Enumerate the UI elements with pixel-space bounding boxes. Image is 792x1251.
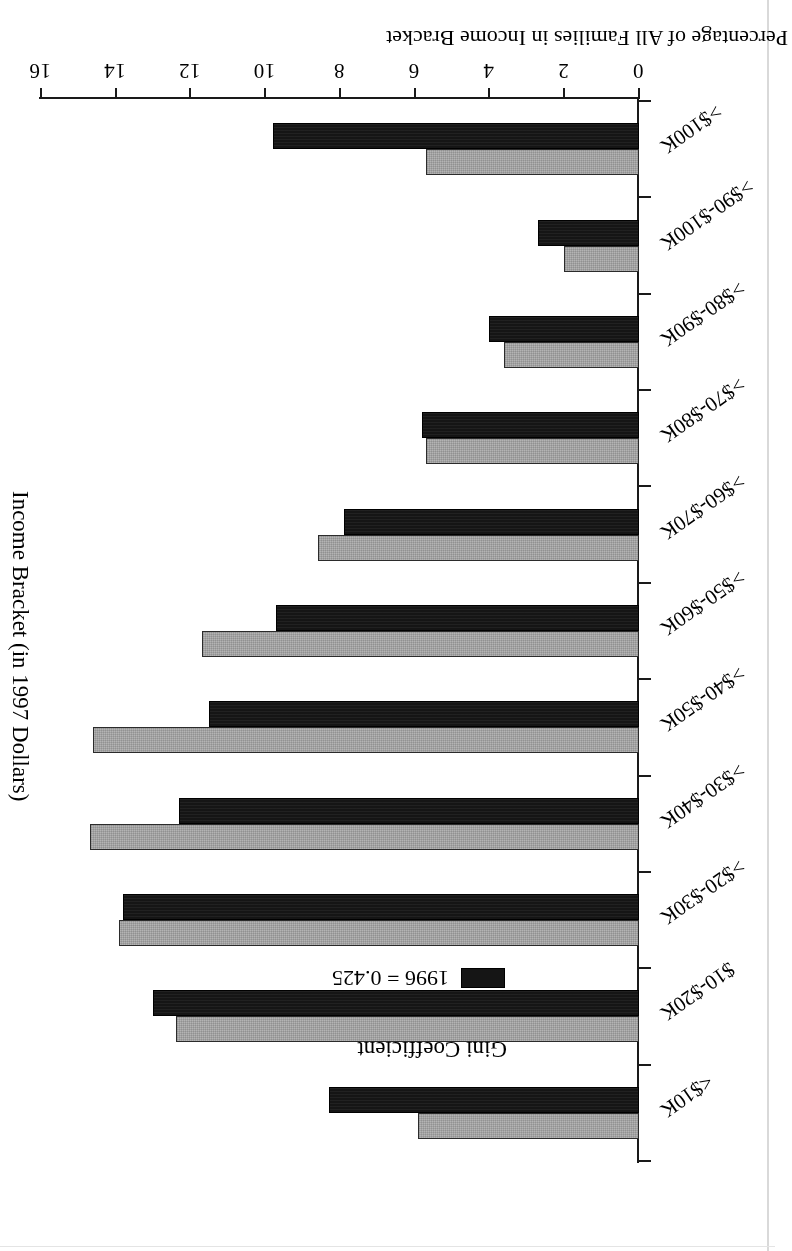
- bar-1973: [90, 824, 639, 850]
- bar-1996: [276, 605, 639, 631]
- value-tick-label: 16: [10, 59, 70, 83]
- bar-1973: [426, 149, 639, 175]
- bar-1973: [504, 342, 639, 368]
- value-tick: [638, 88, 640, 99]
- category-tick: [639, 389, 651, 391]
- category-tick: [639, 196, 651, 198]
- category-tick: [639, 582, 651, 584]
- value-tick-label: 6: [384, 59, 444, 83]
- bar-1996: [209, 701, 639, 727]
- category-tick: [639, 678, 651, 680]
- bar-group: [41, 798, 639, 850]
- bar-group: [41, 123, 639, 175]
- value-axis-title: Percentage of All Families in Income Bra…: [0, 25, 792, 51]
- value-tick: [414, 88, 416, 99]
- value-tick-label: 2: [533, 59, 593, 83]
- bar-1996: [490, 316, 640, 342]
- bar-group: [41, 316, 639, 368]
- value-tick: [40, 88, 42, 99]
- bar-1996: [344, 509, 639, 535]
- bar-group: [41, 1087, 639, 1139]
- bar-1996: [179, 798, 639, 824]
- category-tick: [639, 485, 651, 487]
- value-tick: [190, 88, 192, 99]
- bar-1996: [422, 412, 639, 438]
- category-tick: [639, 100, 651, 102]
- value-tick: [563, 88, 565, 99]
- value-tick-label: 4: [459, 59, 519, 83]
- value-tick-label: 12: [160, 59, 220, 83]
- bar-1996: [273, 123, 639, 149]
- bar-1996: [538, 220, 639, 246]
- bar-group: [41, 509, 639, 561]
- category-tick: [639, 293, 651, 295]
- bar-1973: [176, 1016, 639, 1042]
- value-tick-label: 0: [608, 59, 668, 83]
- category-tick: [639, 1064, 651, 1066]
- bar-1973: [120, 920, 640, 946]
- plot-area: 0246810121416 <$10K$10-$20K>$20-$30K>$30…: [41, 101, 639, 1161]
- value-tick: [264, 88, 266, 99]
- bar-1973: [426, 438, 639, 464]
- bar-1973: [419, 1113, 640, 1139]
- value-tick: [489, 88, 491, 99]
- value-tick-label: 8: [309, 59, 369, 83]
- bar-group: [41, 894, 639, 946]
- category-axis-title: Income Bracket (in 1997 Dollars): [7, 491, 33, 801]
- category-tick: [639, 967, 651, 969]
- bar-1996: [329, 1087, 639, 1113]
- category-tick: [639, 775, 651, 777]
- value-tick: [339, 88, 341, 99]
- value-tick-label: 10: [234, 59, 294, 83]
- bar-group: [41, 412, 639, 464]
- bar-1973: [564, 246, 639, 272]
- bar-1973: [318, 535, 639, 561]
- bar-1973: [202, 631, 639, 657]
- bar-1973: [93, 727, 639, 753]
- category-tick: [639, 871, 651, 873]
- bar-group: [41, 220, 639, 272]
- value-tick: [115, 88, 117, 99]
- bar-1996: [123, 894, 639, 920]
- bar-group: [41, 990, 639, 1042]
- category-tick: [639, 1160, 651, 1162]
- bar-group: [41, 701, 639, 753]
- value-tick-label: 14: [85, 59, 145, 83]
- bar-1996: [153, 990, 639, 1016]
- bar-group: [41, 605, 639, 657]
